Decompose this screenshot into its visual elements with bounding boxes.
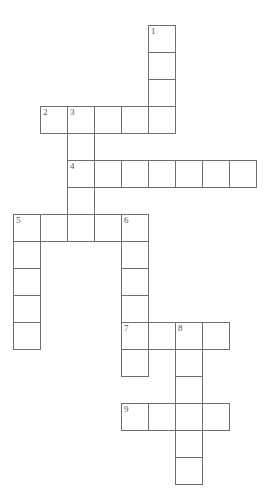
- cell-number: 9: [124, 404, 129, 415]
- crossword-cell[interactable]: 7: [121, 322, 149, 350]
- crossword-cell[interactable]: [148, 403, 176, 431]
- crossword-cell[interactable]: [121, 160, 149, 188]
- crossword-cell[interactable]: [175, 376, 203, 404]
- crossword-cell[interactable]: [94, 214, 122, 242]
- crossword-cell[interactable]: 5: [13, 214, 41, 242]
- crossword-cell[interactable]: 3: [67, 106, 95, 134]
- crossword-cell[interactable]: [148, 160, 176, 188]
- crossword-cell[interactable]: [148, 322, 176, 350]
- crossword-cell[interactable]: [67, 187, 95, 215]
- cell-number: 3: [70, 107, 75, 118]
- crossword-cell[interactable]: [94, 106, 122, 134]
- crossword-cell[interactable]: 4: [67, 160, 95, 188]
- crossword-cell[interactable]: [175, 160, 203, 188]
- crossword-cell[interactable]: 8: [175, 322, 203, 350]
- crossword-cell[interactable]: 2: [40, 106, 68, 134]
- crossword-cell[interactable]: [175, 403, 203, 431]
- cell-number: 4: [70, 161, 75, 172]
- crossword-cell[interactable]: [94, 160, 122, 188]
- crossword-cell[interactable]: [148, 52, 176, 80]
- crossword-cell[interactable]: 1: [148, 25, 176, 53]
- crossword-cell[interactable]: [202, 403, 230, 431]
- cell-number: 5: [16, 215, 21, 226]
- crossword-cell[interactable]: [40, 214, 68, 242]
- crossword-cell[interactable]: [175, 430, 203, 458]
- crossword-cell[interactable]: [67, 214, 95, 242]
- crossword-cell[interactable]: [13, 295, 41, 323]
- crossword-cell[interactable]: [202, 160, 230, 188]
- crossword-cell[interactable]: [175, 457, 203, 485]
- crossword-cell[interactable]: [13, 241, 41, 269]
- crossword-cell[interactable]: [67, 133, 95, 161]
- crossword-cell[interactable]: [121, 268, 149, 296]
- crossword-cell[interactable]: 6: [121, 214, 149, 242]
- cell-number: 7: [124, 323, 129, 334]
- crossword-cell[interactable]: [202, 322, 230, 350]
- crossword-cell[interactable]: [148, 79, 176, 107]
- crossword-cell[interactable]: [121, 241, 149, 269]
- crossword-puzzle-grid: 123456789: [0, 0, 266, 490]
- crossword-cell[interactable]: [121, 106, 149, 134]
- cell-number: 8: [178, 323, 183, 334]
- crossword-cell[interactable]: [121, 349, 149, 377]
- cell-number: 6: [124, 215, 129, 226]
- cell-number: 1: [151, 26, 156, 37]
- crossword-cell[interactable]: 9: [121, 403, 149, 431]
- crossword-cell[interactable]: [175, 349, 203, 377]
- crossword-cell[interactable]: [121, 295, 149, 323]
- crossword-cell[interactable]: [148, 106, 176, 134]
- cell-number: 2: [43, 107, 48, 118]
- crossword-cell[interactable]: [229, 160, 257, 188]
- crossword-cell[interactable]: [13, 268, 41, 296]
- crossword-cell[interactable]: [13, 322, 41, 350]
